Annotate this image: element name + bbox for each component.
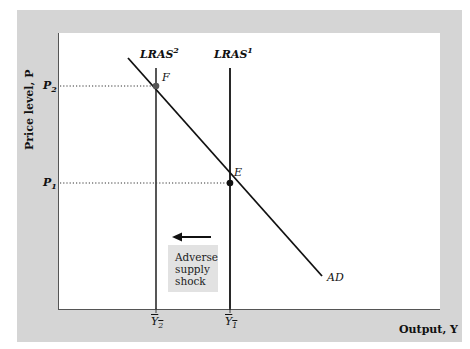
y1-tick-label: Y1 xyxy=(225,316,237,330)
point-e-marker xyxy=(227,180,234,187)
lras2-label: LRAS2 xyxy=(140,46,179,60)
y2-tick-label: Y2 xyxy=(151,316,163,330)
ad-line xyxy=(128,58,322,276)
lras1-label: LRAS1 xyxy=(214,46,253,60)
p2-tick-label: P2 xyxy=(43,80,57,93)
p1-tick-label: P1 xyxy=(43,177,57,190)
shock-arrow-head xyxy=(172,233,182,242)
point-f-marker xyxy=(153,83,160,90)
ad-label: AD xyxy=(327,272,344,283)
x-axis-label: Output, Y xyxy=(399,323,458,336)
point-e-label: E xyxy=(234,167,242,178)
point-f-label: F xyxy=(162,72,170,83)
adverse-supply-shock-annotation: Adverse supply shock xyxy=(168,245,218,292)
y-axis-label: Price level, P xyxy=(23,70,36,150)
